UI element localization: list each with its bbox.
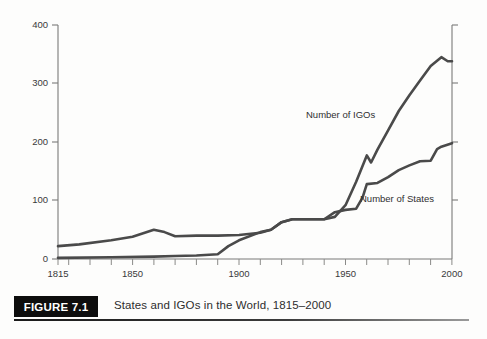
x-tick-label-1900: 1900 [228, 268, 249, 279]
y-tick-label-300: 300 [32, 77, 48, 88]
figure-caption-text: States and IGOs in the World, 1815–2000 [114, 299, 331, 311]
x-axis-minor-ticks [58, 259, 452, 265]
y-tick-label-100: 100 [32, 194, 48, 205]
right-axis-ticks [452, 25, 458, 200]
figure-caption-band: FIGURE 7.1 States and IGOs in the World,… [0, 296, 487, 326]
x-tick-label-2000: 2000 [441, 268, 462, 279]
line-chart: 400 300 200 100 0 [0, 0, 487, 290]
x-tick-label-1815: 1815 [47, 268, 68, 279]
y-tick-label-200: 200 [32, 136, 48, 147]
y-tick-label-0: 0 [43, 253, 48, 264]
caption-divider-rule [14, 319, 469, 321]
series-line-igos [58, 57, 452, 246]
x-tick-label-1850: 1850 [122, 268, 143, 279]
annotation-states: Number of States [360, 193, 434, 204]
y-tick-label-400: 400 [32, 19, 48, 30]
annotation-igos: Number of IGOs [306, 109, 375, 120]
x-tick-label-1950: 1950 [335, 268, 356, 279]
figure-number-badge: FIGURE 7.1 [14, 296, 98, 317]
figure-container: 400 300 200 100 0 [0, 0, 487, 339]
y-axis-ticks [52, 25, 58, 259]
